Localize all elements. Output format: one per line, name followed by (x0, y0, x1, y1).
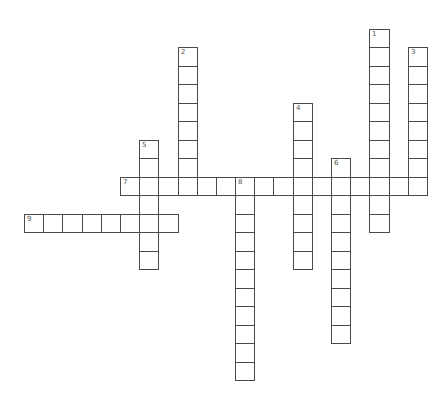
crossword-cell[interactable] (369, 177, 390, 196)
crossword-cell[interactable] (235, 251, 255, 270)
crossword-cell[interactable] (293, 214, 313, 233)
clue-number: 7 (123, 179, 127, 186)
crossword-cell[interactable] (235, 325, 255, 344)
crossword-cell[interactable]: 3 (408, 47, 428, 67)
crossword-cell[interactable] (178, 158, 198, 178)
crossword-cell[interactable] (408, 177, 428, 196)
crossword-cell[interactable] (178, 177, 198, 196)
crossword-cell[interactable] (139, 251, 159, 270)
crossword-cell[interactable] (389, 177, 409, 196)
crossword-cell[interactable] (101, 214, 121, 233)
crossword-cell[interactable] (331, 177, 351, 196)
crossword-cell[interactable] (312, 177, 332, 196)
crossword-cell[interactable] (369, 66, 390, 85)
crossword-cell[interactable] (369, 158, 390, 178)
crossword-cell[interactable] (178, 103, 198, 122)
crossword-cell[interactable] (331, 288, 351, 307)
crossword-cell[interactable] (235, 232, 255, 252)
crossword-cell[interactable] (235, 269, 255, 289)
crossword-cell[interactable] (331, 232, 351, 252)
crossword-cell[interactable] (293, 232, 313, 252)
crossword-cell[interactable] (235, 306, 255, 326)
crossword-cell[interactable] (235, 362, 255, 381)
crossword-cell[interactable]: 6 (331, 158, 351, 178)
crossword-cell[interactable] (254, 177, 274, 196)
crossword-cell[interactable] (293, 158, 313, 178)
crossword-cell[interactable] (139, 214, 159, 233)
crossword-cell[interactable] (235, 214, 255, 233)
clue-number: 9 (27, 216, 31, 223)
crossword-cell[interactable] (369, 84, 390, 104)
crossword-cell[interactable] (408, 121, 428, 141)
clue-number: 4 (296, 105, 300, 112)
crossword-cell[interactable] (178, 121, 198, 141)
crossword-cell[interactable] (293, 195, 313, 215)
crossword-cell[interactable] (369, 121, 390, 141)
crossword-cell[interactable] (293, 121, 313, 141)
crossword-cell[interactable] (139, 177, 159, 196)
crossword-cell[interactable] (293, 177, 313, 196)
clue-number: 8 (238, 179, 242, 186)
crossword-cell[interactable] (369, 103, 390, 122)
crossword-cell[interactable] (273, 177, 294, 196)
crossword-cell[interactable]: 5 (139, 140, 159, 159)
crossword-cell[interactable]: 9 (24, 214, 44, 233)
crossword-cell[interactable] (120, 214, 140, 233)
crossword-cell[interactable] (369, 140, 390, 159)
clue-number: 3 (411, 49, 415, 56)
clue-number: 6 (334, 160, 338, 167)
crossword-cell[interactable]: 1 (369, 29, 390, 48)
crossword-cell[interactable] (331, 251, 351, 270)
crossword-cell[interactable] (408, 66, 428, 85)
crossword-cell[interactable] (293, 140, 313, 159)
crossword-cell[interactable] (235, 195, 255, 215)
crossword-cell[interactable]: 2 (178, 47, 198, 67)
crossword-cell[interactable] (408, 140, 428, 159)
crossword-cell[interactable] (408, 158, 428, 178)
crossword-cell[interactable] (158, 177, 179, 196)
crossword-cell[interactable] (178, 66, 198, 85)
crossword-cell[interactable] (139, 195, 159, 215)
crossword-cell[interactable] (331, 214, 351, 233)
crossword-cell[interactable] (369, 214, 390, 233)
crossword-cell[interactable] (158, 214, 179, 233)
crossword-cell[interactable] (235, 288, 255, 307)
crossword-cell[interactable] (408, 103, 428, 122)
crossword-cell[interactable] (235, 343, 255, 363)
crossword-cell[interactable] (331, 269, 351, 289)
crossword-cell[interactable]: 4 (293, 103, 313, 122)
crossword-cell[interactable] (178, 84, 198, 104)
crossword-cell[interactable] (331, 195, 351, 215)
crossword-cell[interactable] (293, 251, 313, 270)
crossword-cell[interactable] (331, 325, 351, 344)
crossword-cell[interactable] (350, 177, 370, 196)
crossword-cell[interactable] (62, 214, 83, 233)
crossword-cell[interactable] (216, 177, 236, 196)
clue-number: 1 (372, 31, 376, 38)
crossword-grid: 123456789 (0, 0, 447, 401)
clue-number: 2 (181, 49, 185, 56)
crossword-cell[interactable] (43, 214, 63, 233)
crossword-cell[interactable] (197, 177, 217, 196)
crossword-cell[interactable] (369, 195, 390, 215)
crossword-cell[interactable] (139, 158, 159, 178)
crossword-cell[interactable]: 7 (120, 177, 140, 196)
crossword-cell[interactable] (82, 214, 102, 233)
clue-number: 5 (142, 142, 146, 149)
crossword-cell[interactable] (408, 84, 428, 104)
crossword-cell[interactable]: 8 (235, 177, 255, 196)
crossword-cell[interactable] (178, 140, 198, 159)
crossword-cell[interactable] (369, 47, 390, 67)
crossword-cell[interactable] (331, 306, 351, 326)
crossword-cell[interactable] (139, 232, 159, 252)
